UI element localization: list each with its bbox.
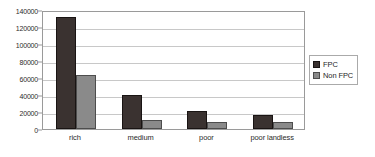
bar-group <box>253 12 293 129</box>
bar <box>56 17 76 129</box>
bar <box>187 111 207 129</box>
x-axis: richmediumpoorpoor landless <box>42 133 305 147</box>
bar <box>253 115 273 129</box>
y-tick-label: 120000 <box>0 25 38 32</box>
y-tick-label: 40000 <box>0 93 38 100</box>
legend-item: Non FPC <box>313 70 353 81</box>
y-tick-label: 20000 <box>0 110 38 117</box>
bar-group <box>56 12 96 129</box>
x-tick-label: poor <box>174 133 240 142</box>
bar <box>76 75 96 129</box>
legend-swatch-icon <box>313 72 320 79</box>
bar-group <box>122 12 162 129</box>
bar <box>207 122 227 129</box>
bar <box>142 120 162 129</box>
y-tick-label: 0 <box>0 127 38 134</box>
legend-swatch-icon <box>313 61 320 68</box>
y-axis: 020000400006000080000100000120000140000 <box>0 11 38 130</box>
bar <box>122 95 142 129</box>
bar-group <box>187 12 227 129</box>
y-tick-label: 80000 <box>0 59 38 66</box>
x-tick-label: poor landless <box>239 133 305 142</box>
legend-label: Non FPC <box>323 72 353 80</box>
y-tick-label: 140000 <box>0 8 38 15</box>
plot-area <box>42 11 305 130</box>
bar-chart: 020000400006000080000100000120000140000 … <box>0 0 375 157</box>
y-tick-label: 60000 <box>0 76 38 83</box>
x-tick-label: rich <box>42 133 108 142</box>
legend-item: FPC <box>313 59 353 70</box>
x-tick-label: medium <box>108 133 174 142</box>
bar <box>273 122 293 129</box>
bars-layer <box>43 12 304 129</box>
chart-legend: FPCNon FPC <box>309 55 358 85</box>
legend-label: FPC <box>323 61 338 69</box>
y-tick-label: 100000 <box>0 42 38 49</box>
